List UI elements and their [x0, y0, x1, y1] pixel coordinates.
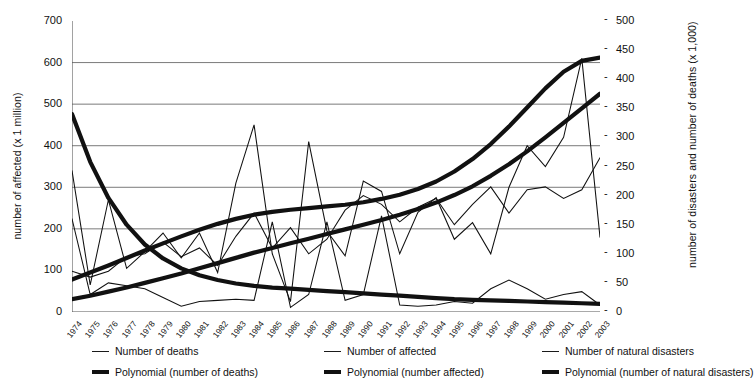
right-tick-dash: - [604, 128, 608, 140]
left-tick-label: 600 [22, 56, 62, 68]
legend-label: Number of deaths [115, 345, 198, 357]
legend-swatch-thin-line-icon [92, 351, 109, 352]
right-tick-dash: - [604, 99, 608, 111]
right-axis-title: number of disasters and number of deaths… [686, 68, 698, 268]
right-tick-dash: - [604, 41, 608, 53]
right-tick-label: 250 [616, 160, 656, 172]
right-tick-label: 100 [616, 247, 656, 259]
legend-label: Number of affected [347, 345, 436, 357]
legend-item[interactable]: Number of affected [324, 345, 436, 357]
plot-area [72, 21, 600, 312]
right-tick-label: 150 [616, 218, 656, 230]
left-tick-label: 700 [22, 14, 62, 26]
right-tick-dash: - [604, 216, 608, 228]
legend-label: Polynomial (number affected) [347, 366, 484, 378]
right-tick-label: 400 [616, 72, 656, 84]
right-tick-label: 0 [616, 305, 656, 317]
chart-canvas [72, 21, 600, 312]
legend-swatch-thin-line-icon [542, 351, 559, 352]
legend-item[interactable]: Polynomial (number of natural disasters) [542, 366, 754, 378]
left-tick-label: 300 [22, 180, 62, 192]
data-series [72, 58, 600, 308]
right-tick-dash: - [604, 158, 608, 170]
right-tick-label: 200 [616, 189, 656, 201]
right-tick-dash: - [604, 187, 608, 199]
legend-swatch-thin-line-icon [324, 351, 341, 352]
legend-label: Polynomial (number of deaths) [115, 366, 258, 378]
legend-swatch-thick-line-icon [324, 370, 341, 374]
left-tick-label: 400 [22, 139, 62, 151]
legend-item[interactable]: Polynomial (number of deaths) [92, 366, 258, 378]
series-line [72, 58, 600, 280]
legend-label: Polynomial (number of natural disasters) [565, 366, 754, 378]
series-line [72, 94, 600, 299]
legend-item[interactable]: Number of deaths [92, 345, 198, 357]
legend-item[interactable]: Number of natural disasters [542, 345, 694, 357]
right-tick-label: 350 [616, 101, 656, 113]
legend-item[interactable]: Polynomial (number affected) [324, 366, 484, 378]
left-tick-label: 0 [22, 305, 62, 317]
axis-lines [72, 21, 600, 312]
right-tick-dash: - [604, 70, 608, 82]
series-line [72, 58, 600, 301]
right-tick-label: 450 [616, 43, 656, 55]
right-tick-dash: - [604, 245, 608, 257]
right-tick-dash: - [604, 303, 608, 315]
series-line [72, 114, 600, 304]
right-tick-label: 500 [616, 14, 656, 26]
left-tick-label: 500 [22, 97, 62, 109]
right-tick-label: 50 [616, 276, 656, 288]
chart-legend: Number of deathsNumber of affectedNumber… [72, 345, 672, 387]
legend-label: Number of natural disasters [565, 345, 694, 357]
legend-swatch-thick-line-icon [92, 370, 109, 374]
right-tick-dash: - [604, 12, 608, 24]
left-tick-label: 200 [22, 222, 62, 234]
right-tick-label: 300 [616, 130, 656, 142]
left-tick-label: 100 [22, 263, 62, 275]
right-tick-dash: - [604, 274, 608, 286]
legend-swatch-thick-line-icon [542, 370, 559, 374]
